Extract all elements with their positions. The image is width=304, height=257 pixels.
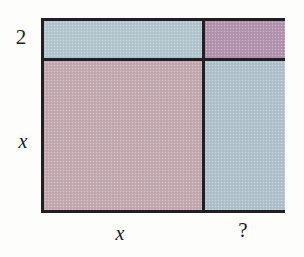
bottom-right-cell (205, 61, 285, 210)
height-label-top: 2 (6, 27, 36, 48)
height-label-bottom: x (8, 131, 38, 151)
top-right-cell (205, 21, 285, 61)
top-left-cell (44, 21, 205, 61)
area-model-figure: 2 x x ? (0, 0, 304, 257)
bottom-left-cell (44, 61, 205, 210)
width-label-left: x (60, 223, 180, 243)
width-label-right: ? (202, 220, 284, 241)
area-model-rectangle (41, 18, 285, 213)
